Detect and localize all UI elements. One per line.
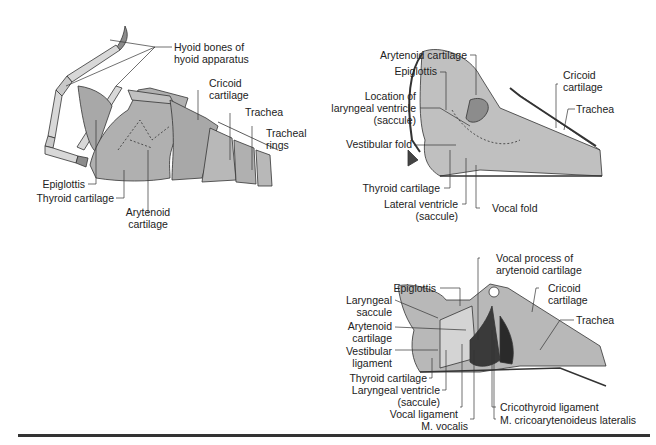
larynx-diagram: Hyoid bones ofhyoid apparatus Cricoidcar… <box>0 0 656 445</box>
label-cricoid-cartilage-2: Cricoidcartilage <box>563 69 603 93</box>
label-thyroid-cartilage-3: Thyroid cartilage <box>330 372 427 384</box>
label-arytenoid-cartilage: Arytenoidcartilage <box>118 206 178 230</box>
label-m-cricoarytenoideus-lateralis: M. cricoarytenoideus lateralis <box>500 414 636 426</box>
label-cricoid-cartilage: Cricoidcartilage <box>209 77 249 101</box>
label-vocal-fold: Vocal fold <box>492 202 538 214</box>
label-arytenoid-cartilage-2: Arytenoid cartilage <box>360 49 467 61</box>
label-epiglottis-2: Epiglottis <box>380 65 437 77</box>
label-epiglottis-3: Epiglottis <box>350 282 436 294</box>
label-m-vocalis: M. vocalis <box>390 420 468 432</box>
label-tracheal-rings: Trachealrings <box>266 127 306 151</box>
label-lateral-ventricle: Lateral ventricle(saccule) <box>370 198 458 222</box>
diagram-artwork <box>0 0 656 445</box>
label-hyoid-bones: Hyoid bones ofhyoid apparatus <box>174 41 249 65</box>
label-thyroid-cartilage: Thyroid cartilage <box>10 192 114 204</box>
label-arytenoid-cartilage-3: Arytenoidcartilage <box>330 320 392 344</box>
label-cricoid-cartilage-3: Cricoidcartilage <box>548 282 588 306</box>
label-vestibular-fold: Vestibular fold <box>330 138 412 150</box>
label-thyroid-cartilage-2: Thyroid cartilage <box>340 182 440 194</box>
label-laryngeal-saccule: Laryngealsaccule <box>330 294 392 318</box>
label-epiglottis: Epiglottis <box>20 178 85 190</box>
label-vocal-ligament: Vocal ligament <box>360 408 458 420</box>
label-trachea-2: Trachea <box>576 103 614 115</box>
label-laryngeal-ventricle-location: Location oflaryngeal ventricle(saccule) <box>320 90 416 126</box>
label-trachea-3: Trachea <box>576 314 614 326</box>
label-laryngeal-ventricle: Laryngeal ventricle(saccule) <box>330 384 440 408</box>
label-vestibular-ligament: Vestibularligament <box>330 345 392 369</box>
label-trachea: Trachea <box>245 106 283 118</box>
bottom-rule <box>18 434 650 437</box>
label-cricothyroid-ligament: Cricothyroid ligament <box>500 401 599 413</box>
label-vocal-process: Vocal process ofarytenoid cartilage <box>496 252 582 276</box>
